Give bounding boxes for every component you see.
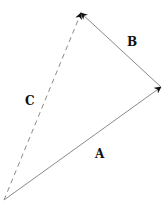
vector-b-label: B: [127, 36, 137, 48]
vector-c-label: C: [25, 95, 35, 107]
vector-b-arrow: [81, 13, 161, 87]
vector-diagram: A B C: [0, 0, 167, 205]
vector-a-label: A: [95, 148, 104, 160]
